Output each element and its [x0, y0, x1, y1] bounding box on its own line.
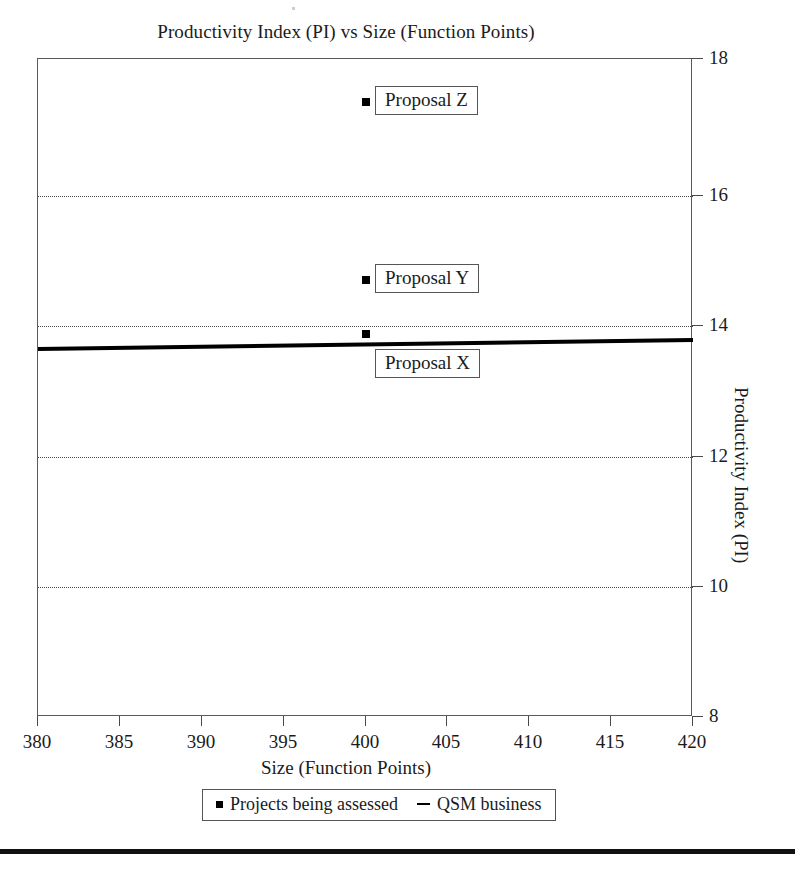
- x-tick-label-410: 410: [514, 731, 543, 753]
- y-tick-mark-16: [692, 195, 703, 196]
- square-marker-icon: [216, 801, 223, 808]
- x-axis-title: Size (Function Points): [0, 757, 692, 779]
- legend-item-qsm-business: QSM business: [417, 794, 542, 815]
- x-tick-label-400: 400: [351, 731, 380, 753]
- y-tick-mark-14: [692, 325, 703, 326]
- x-tick-mark-415: [610, 716, 611, 726]
- y-tick-label-10: 10: [709, 575, 728, 597]
- scan-artifact-speck: [292, 7, 295, 10]
- y-tick-label-8: 8: [709, 705, 719, 727]
- legend-label-projects-being-assessed: Projects being assessed: [230, 794, 398, 815]
- x-tick-mark-410: [528, 716, 529, 726]
- chart-title: Productivity Index (PI) vs Size (Functio…: [0, 21, 692, 43]
- line-marker-icon: [417, 803, 430, 805]
- x-tick-label-415: 415: [596, 731, 625, 753]
- callout-proposal-x: Proposal X: [375, 349, 480, 378]
- data-point-proposal-y[interactable]: [362, 276, 370, 284]
- x-tick-mark-405: [446, 716, 447, 726]
- page-divider-rule: [0, 849, 795, 854]
- legend-label-qsm-business: QSM business: [437, 794, 542, 815]
- y-tick-label-14: 14: [709, 314, 728, 336]
- page-footer-cutoff-text: [60, 862, 490, 878]
- x-tick-mark-395: [283, 716, 284, 726]
- y-tick-mark-12: [692, 456, 703, 457]
- x-tick-mark-420: [692, 716, 693, 726]
- x-tick-label-395: 395: [269, 731, 298, 753]
- plot-area: Proposal Z Proposal Y Proposal X: [37, 58, 692, 716]
- y-tick-label-16: 16: [709, 184, 728, 206]
- data-point-proposal-z[interactable]: [362, 98, 370, 106]
- y-tick-label-18: 18: [709, 47, 728, 69]
- legend-item-projects-being-assessed: Projects being assessed: [216, 794, 398, 815]
- x-tick-mark-400: [365, 716, 366, 726]
- y-tick-mark-10: [692, 586, 703, 587]
- data-point-proposal-x[interactable]: [362, 330, 370, 338]
- callout-proposal-z: Proposal Z: [375, 86, 478, 115]
- x-tick-mark-385: [119, 716, 120, 726]
- y-tick-mark-8: [692, 716, 703, 717]
- x-tick-mark-380: [37, 716, 38, 726]
- y-tick-label-12: 12: [709, 445, 728, 467]
- y-tick-mark-18: [692, 58, 703, 59]
- qsm-business-trend-line: [38, 59, 693, 717]
- callout-proposal-y: Proposal Y: [375, 264, 479, 293]
- chart-legend: Projects being assessed QSM business: [202, 789, 556, 821]
- x-tick-label-420: 420: [678, 731, 707, 753]
- x-tick-mark-390: [201, 716, 202, 726]
- scanned-chart-page: Productivity Index (PI) vs Size (Functio…: [0, 0, 795, 878]
- x-tick-label-405: 405: [432, 731, 461, 753]
- y-axis-title: Productivity Index (PI): [730, 387, 752, 563]
- x-tick-label-385: 385: [105, 731, 134, 753]
- x-tick-label-390: 390: [187, 731, 216, 753]
- x-tick-label-380: 380: [23, 731, 52, 753]
